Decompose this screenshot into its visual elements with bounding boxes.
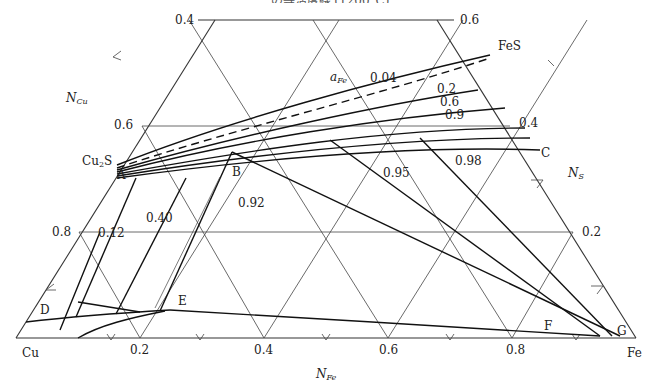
tick-bottom-0.6: 0.6 bbox=[379, 343, 398, 357]
tick-right-0.6: 0.6 bbox=[460, 13, 479, 27]
tick-left-0.6: 0.6 bbox=[114, 118, 133, 132]
iso-label-0.40: 0.40 bbox=[146, 211, 173, 225]
point-c-label: C bbox=[541, 146, 550, 160]
axis-label-ns: NS bbox=[567, 166, 585, 181]
activity-label-afe: aFe bbox=[330, 70, 347, 85]
axis-label-nfe: NFe bbox=[315, 367, 337, 381]
point-e-label: E bbox=[178, 294, 187, 308]
compound-fes-label: FeS bbox=[498, 39, 521, 53]
guide-lines-thin bbox=[155, 177, 220, 308]
point-g-label: G bbox=[617, 324, 627, 338]
tick-bottom-0.2: 0.2 bbox=[130, 343, 149, 357]
axis-label-ncu: NCu bbox=[65, 91, 88, 106]
iso-label-0.04: 0.04 bbox=[370, 71, 397, 85]
iso-label-0.92: 0.92 bbox=[238, 196, 265, 210]
point-b-label: B bbox=[232, 165, 241, 179]
iso-activity-curves bbox=[26, 55, 620, 338]
tick-bottom-0.8: 0.8 bbox=[506, 343, 525, 357]
triangle-frame bbox=[16, 20, 636, 338]
point-f-label: F bbox=[544, 319, 552, 333]
tick-bottom-0.4: 0.4 bbox=[254, 343, 273, 357]
vertex-fe-label: Fe bbox=[627, 346, 642, 360]
iso-label-0.12: 0.12 bbox=[98, 226, 125, 240]
ternary-diagram: Cu Fe Cu2S FeS NCu NS NFe aFe 0.4 0.6 0.… bbox=[0, 0, 648, 381]
iso-label-0.98: 0.98 bbox=[455, 154, 482, 168]
tick-left-0.4: 0.4 bbox=[175, 13, 194, 27]
tick-left-0.8: 0.8 bbox=[52, 225, 71, 239]
iso-label-0.9: 0.9 bbox=[445, 108, 464, 122]
tick-right-0.4: 0.4 bbox=[519, 116, 538, 130]
vertex-cu-label: Cu bbox=[22, 346, 39, 360]
grid-lines bbox=[79, 20, 587, 338]
iso-label-0.95: 0.95 bbox=[383, 166, 410, 180]
iso-label-0.6: 0.6 bbox=[440, 95, 459, 109]
compound-cu2s-label: Cu2S bbox=[82, 154, 112, 169]
iso-label-0.2: 0.2 bbox=[437, 82, 456, 96]
point-d-label: D bbox=[40, 303, 50, 317]
point-a-label: A bbox=[116, 168, 126, 182]
tick-right-0.2: 0.2 bbox=[582, 225, 601, 239]
